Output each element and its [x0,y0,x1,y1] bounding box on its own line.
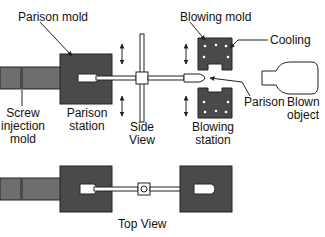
label-parison: Parison [244,96,285,109]
label-parison-station: Parison station [62,107,112,133]
label-blown-object: Blown object [287,96,320,122]
rotating-hub [136,72,148,84]
label-blowing-mold: Blowing mold [180,11,251,24]
label-screw-injection-mold: Screw injection mold [0,107,46,146]
label-top-view: Top View [118,218,166,231]
label-blowing-station: Blowing station [186,121,240,147]
screw-barrel [0,67,62,89]
blown-object [262,62,318,94]
label-cooling: Cooling [270,34,311,47]
top-screw-barrel [0,178,62,200]
label-parison-mold: Parison mold [18,11,88,24]
top-view [0,166,232,212]
label-side-view: Side View [124,121,160,147]
blowing-mold-top [198,38,232,70]
